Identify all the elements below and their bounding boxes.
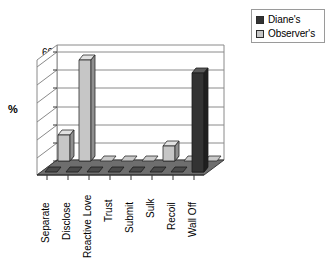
x-tick-label-trust: Trust [104, 200, 114, 222]
bar-observers-sulk [163, 141, 179, 161]
x-tick-label-wall-off: Wall Off [188, 202, 198, 237]
x-tick-label-sulk: Sulk [146, 199, 156, 218]
x-tick-label-reactive-love: Reactive Love [83, 195, 93, 258]
bar-chart: Diane's Observer's % 60 50 40 30 20 10 0 [0, 0, 333, 270]
x-tick-label-disclose: Disclose [62, 202, 72, 240]
bar-dianes-wall-off [192, 68, 208, 172]
bar-observers-disclose [79, 55, 95, 161]
x-tick-label-recoil: Recoil [167, 202, 177, 230]
bar-observers-separate [58, 130, 74, 161]
x-tick-label-separate: Separate [41, 202, 51, 243]
x-tick-label-submit: Submit [125, 202, 135, 233]
